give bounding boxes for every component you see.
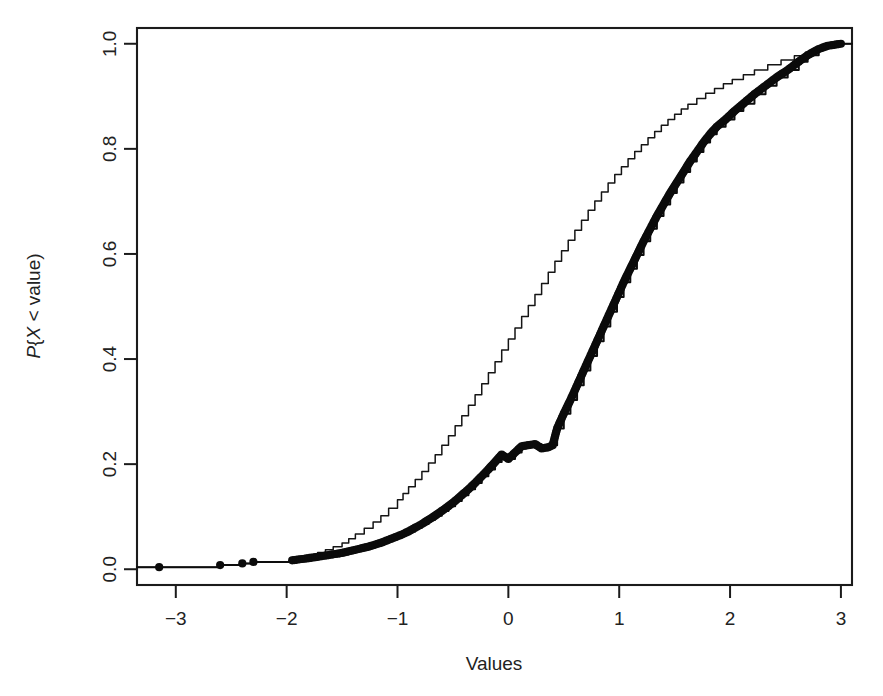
y-tick-label: 0.0 [99,556,120,582]
data-point-marker [216,561,224,569]
x-tick-label: −2 [276,608,298,629]
y-tick-label: 0.6 [99,241,120,267]
x-tick-label: −3 [165,608,187,629]
x-tick-label: 3 [836,608,847,629]
x-tick-label: −1 [387,608,409,629]
y-axis-title: P{X < value) [23,253,44,358]
data-point-marker [249,558,257,566]
chart-canvas: −3−2−10123 0.00.20.40.60.81.0 Values P{X… [0,0,883,696]
y-tick-label: 0.8 [99,136,120,162]
y-tick-label: 0.2 [99,451,120,477]
data-point-marker [837,40,845,48]
y-tick-label: 0.4 [99,345,120,372]
x-tick-label: 1 [614,608,625,629]
y-tick-label: 1.0 [99,31,120,57]
data-point-marker [238,559,246,567]
x-axis-title: Values [466,653,523,674]
data-point-marker [155,563,163,571]
ecdf-chart-figure: −3−2−10123 0.00.20.40.60.81.0 Values P{X… [0,0,883,696]
x-tick-label: 0 [503,608,514,629]
x-tick-label: 2 [725,608,736,629]
